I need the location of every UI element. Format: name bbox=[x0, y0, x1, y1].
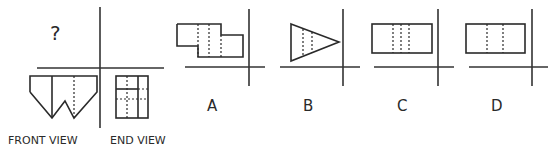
option-a[interactable]: A bbox=[177, 9, 265, 115]
end-view-shape bbox=[116, 76, 148, 118]
option-b[interactable]: B bbox=[280, 9, 360, 115]
front-view-shape bbox=[30, 76, 97, 118]
option-c[interactable]: C bbox=[372, 9, 454, 115]
option-d[interactable]: D bbox=[466, 9, 548, 115]
option-c-label: C bbox=[397, 97, 407, 115]
end-view-label: END VIEW bbox=[110, 134, 166, 147]
option-a-label: A bbox=[207, 97, 218, 115]
question-figure: ? FRONT VIEW END VIEW bbox=[8, 7, 166, 147]
unknown-top-view-mark: ? bbox=[50, 21, 61, 45]
option-b-label: B bbox=[303, 97, 313, 115]
front-view-label: FRONT VIEW bbox=[8, 134, 78, 147]
orthographic-projection-diagram: ? FRONT VIEW END VIEW A bbox=[0, 0, 553, 147]
option-d-label: D bbox=[491, 97, 503, 115]
